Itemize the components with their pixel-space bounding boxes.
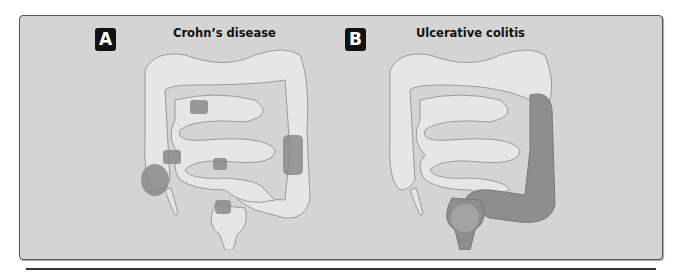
bottom-divider bbox=[26, 268, 656, 270]
illustration-panel bbox=[19, 15, 663, 260]
panel-a-title: Crohn’s disease bbox=[173, 26, 276, 40]
ulcerative-colitis-intestine-illustration bbox=[380, 40, 560, 250]
panel-b-title: Ulcerative colitis bbox=[416, 26, 525, 40]
panel-a-badge: A bbox=[95, 28, 116, 51]
panel-b-badge: B bbox=[345, 28, 366, 51]
crohns-intestine-illustration bbox=[135, 40, 315, 250]
